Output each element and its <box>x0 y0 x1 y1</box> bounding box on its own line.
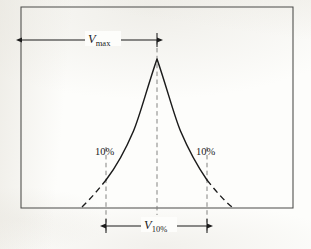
beam-profile-tail-left <box>82 180 106 207</box>
beam-profile-diagram <box>0 0 311 249</box>
v-max-subscript: max <box>96 38 111 48</box>
beam-profile-solid <box>106 59 207 180</box>
v-max-label: Vmax <box>88 33 111 46</box>
ten-percent-label-right: 10% <box>196 147 215 158</box>
v-ten-percent-label: V10% <box>144 219 168 232</box>
ten-percent-label-left: 10% <box>95 147 114 158</box>
v-ten-percent-symbol: V <box>144 218 152 232</box>
beam-profile-tail-right <box>207 180 232 207</box>
v-max-symbol: V <box>88 32 96 46</box>
v-ten-percent-subscript: 10% <box>152 224 168 234</box>
figure-container: Vmax V10% 10% 10% <box>0 0 311 249</box>
beam-profile-curve-group <box>106 59 207 180</box>
dashed-guide-lines <box>106 40 207 232</box>
